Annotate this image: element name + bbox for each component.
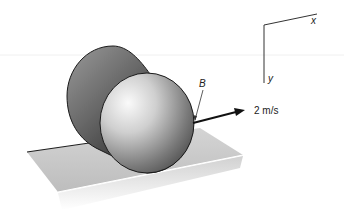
velocity-arrow-shaft xyxy=(193,112,236,123)
point-b-leader xyxy=(195,90,203,120)
velocity-arrowhead-icon xyxy=(234,108,245,116)
diagram-canvas xyxy=(0,0,344,213)
y-axis-label: y xyxy=(268,74,273,84)
velocity-label: 2 m/s xyxy=(254,106,278,116)
point-b-label: B xyxy=(199,79,206,89)
x-axis xyxy=(264,14,317,25)
x-axis-label: x xyxy=(311,16,316,26)
cylinder-front-face xyxy=(100,73,194,173)
